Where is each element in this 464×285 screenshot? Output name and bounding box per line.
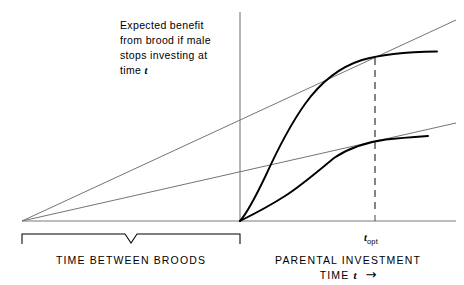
- time-between-broods-caption: TIME BETWEEN BROODS: [56, 254, 206, 266]
- caption-time-prefix: TIME: [320, 269, 354, 281]
- expected-benefit-annotation: Expected benefit from brood if male stop…: [120, 19, 211, 76]
- caption-right-arrow-icon: →: [365, 267, 376, 282]
- annotation-time-symbol: t: [145, 65, 149, 76]
- upper-tangent-line: [22, 20, 456, 221]
- upper-benefit-curve: [240, 52, 437, 222]
- annotation-line-4-prefix: time: [120, 64, 145, 76]
- t-opt-label: topt: [364, 232, 379, 246]
- parental-investment-figure: Expected benefit from brood if male stop…: [0, 0, 464, 285]
- t-opt-label-group: topt: [364, 232, 379, 246]
- t-opt-subscript: opt: [367, 237, 379, 246]
- left-caption-group: TIME BETWEEN BROODS: [56, 254, 206, 266]
- parental-investment-caption-line-1: PARENTAL INVESTMENT: [275, 254, 421, 266]
- annotation-line-3: stops investing at: [120, 49, 207, 61]
- annotation-line-4: time t: [120, 64, 149, 76]
- annotation-line-2: from brood if male: [120, 34, 211, 46]
- caption-time-symbol: t: [353, 269, 357, 281]
- annotation-line-1: Expected benefit: [120, 19, 204, 31]
- lower-benefit-curve: [240, 136, 428, 221]
- bracket-path: [22, 234, 240, 244]
- parental-investment-caption-line-2: TIME t→: [320, 267, 377, 282]
- time-between-broods-bracket: [22, 234, 240, 244]
- right-caption-group: PARENTAL INVESTMENT TIME t→: [275, 254, 421, 282]
- lower-tangent-line: [22, 123, 456, 221]
- tangent-lines-group: [22, 20, 456, 221]
- benefit-curves-group: [240, 52, 437, 222]
- axes-group: [22, 12, 456, 221]
- figure-canvas: Expected benefit from brood if male stop…: [0, 0, 464, 285]
